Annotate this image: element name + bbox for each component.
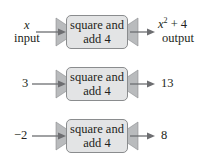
function-box: square and add 4 bbox=[66, 119, 128, 153]
function-label-line1: square and bbox=[67, 122, 127, 136]
output-value: 8 bbox=[161, 129, 167, 142]
input-value: −2 bbox=[14, 129, 27, 142]
input-value: 3 bbox=[22, 77, 28, 90]
arrowhead-out-icon bbox=[147, 29, 155, 36]
function-box: square and add 4 bbox=[66, 15, 128, 49]
function-label-line2: add 4 bbox=[67, 32, 127, 46]
function-label-line2: add 4 bbox=[67, 136, 127, 150]
output-expression: x2 + 4 bbox=[158, 18, 187, 31]
function-label-line1: square and bbox=[67, 18, 127, 32]
machine-row-input-neg2: square and add 4 −2 8 bbox=[0, 114, 200, 158]
machine-row-input-3: square and add 4 3 13 bbox=[0, 62, 200, 106]
output-rest: + 4 bbox=[168, 17, 188, 31]
function-label-line1: square and bbox=[67, 70, 127, 84]
function-label-line2: add 4 bbox=[67, 84, 127, 98]
function-box: square and add 4 bbox=[66, 67, 128, 101]
arrowhead-out-icon bbox=[147, 133, 155, 140]
arrowhead-out-icon bbox=[147, 81, 155, 88]
output-value: 13 bbox=[161, 77, 174, 90]
input-caption: input bbox=[14, 32, 40, 45]
machine-row-general: square and add 4 x input x2 + 4 output bbox=[0, 10, 200, 54]
output-caption: output bbox=[162, 32, 194, 45]
